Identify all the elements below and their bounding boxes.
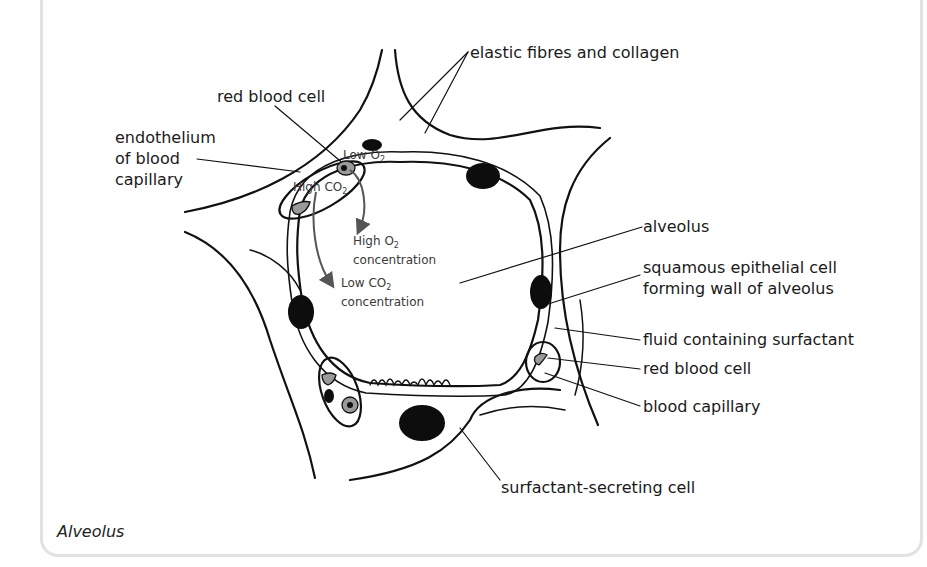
annotation-low-co2: Low CO2concentration bbox=[341, 276, 424, 309]
nucleus bbox=[288, 295, 314, 329]
nucleus bbox=[466, 163, 500, 189]
red-blood-cell bbox=[535, 353, 548, 365]
label-fluid-surfactant: fluid containing surfactant bbox=[643, 330, 854, 350]
label-squamous-2: forming wall of alveolus bbox=[643, 279, 834, 299]
label-surfactant-cell: surfactant-secreting cell bbox=[501, 478, 695, 498]
label-red-blood-cell-top: red blood cell bbox=[217, 87, 325, 107]
label-alveolus: alveolus bbox=[643, 217, 709, 237]
red-blood-cell bbox=[322, 373, 336, 385]
red-blood-cell bbox=[292, 202, 310, 215]
nucleus bbox=[324, 389, 334, 403]
annotation-high-o2: High O2concentration bbox=[353, 234, 436, 267]
nucleus bbox=[530, 275, 552, 309]
surfactant-cell-nucleus bbox=[399, 405, 445, 441]
label-elastic-fibres: elastic fibres and collagen bbox=[470, 43, 679, 63]
figure-caption: Alveolus bbox=[57, 522, 124, 541]
label-squamous-1: squamous epithelial cell bbox=[643, 258, 837, 278]
label-red-blood-cell-right: red blood cell bbox=[643, 359, 751, 379]
annotation-high-co2: High CO2 bbox=[293, 180, 347, 199]
co2-arrow bbox=[314, 192, 330, 282]
annotation-low-o2: Low O2 bbox=[343, 148, 385, 167]
label-endothelium-2: of blood bbox=[115, 149, 180, 169]
label-blood-capillary: blood capillary bbox=[643, 397, 760, 417]
label-endothelium-3: capillary bbox=[115, 170, 183, 190]
label-endothelium-1: endothelium bbox=[115, 128, 216, 148]
